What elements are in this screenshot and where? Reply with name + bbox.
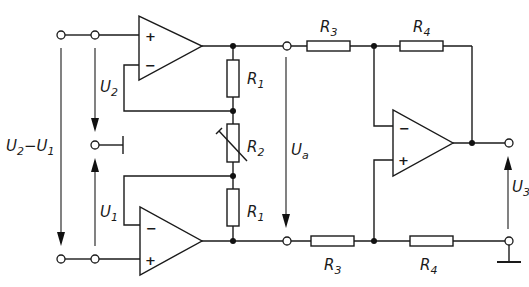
arrow-u3 [504, 156, 512, 229]
svg-text:−: − [145, 58, 156, 73]
label-r2: R2 [247, 138, 264, 159]
node-r1-r2-top [230, 108, 236, 114]
ground-terminal-middle [91, 136, 123, 154]
label-u2: U2 [100, 78, 118, 99]
svg-text:−: − [399, 121, 410, 136]
label-r3-bottom: R3 [324, 256, 341, 277]
node-r1-r2-bottom [230, 173, 236, 179]
wire-plus-input [374, 160, 393, 241]
resistor-r4-top [400, 41, 443, 51]
node-bottom-out [230, 238, 236, 244]
resistor-r2 [227, 124, 239, 162]
label-r1-bottom: R1 [247, 203, 264, 224]
node-top-out [230, 43, 236, 49]
label-u2-minus-u1: U2−U1 [6, 137, 55, 158]
terminal-top-outer [57, 31, 65, 39]
label-r1-top: R1 [247, 70, 264, 91]
terminal-bottom-outer [57, 255, 65, 263]
label-u1: U1 [100, 203, 118, 224]
terminal-u3-top [505, 139, 513, 147]
terminal-ua-bottom [283, 237, 291, 245]
wire-minus-input [374, 46, 393, 126]
arrow-ua [282, 57, 290, 228]
circuit-svg: + − − + − + [0, 0, 529, 287]
ground-icon [497, 245, 521, 262]
label-r4-bottom: R4 [420, 256, 437, 277]
svg-text:+: + [145, 29, 156, 44]
resistor-r4-bottom [410, 236, 453, 246]
svg-text:+: + [145, 253, 156, 268]
terminal-top-inner [91, 31, 99, 39]
svg-text:−: − [146, 221, 157, 236]
resistor-r3-top [307, 41, 350, 51]
arrow-u2-minus-u1 [57, 48, 65, 246]
feedback-top [124, 65, 233, 111]
arrow-u2 [91, 48, 99, 132]
opamp-bottom: − + [140, 207, 202, 275]
terminal-u3-bottom [505, 237, 513, 245]
terminal-ua-top [283, 42, 291, 50]
label-ua: Ua [291, 141, 309, 162]
circuit-diagram: + − − + − + [0, 0, 529, 287]
node-output [469, 140, 475, 146]
arrow-u1 [91, 158, 99, 246]
opamp-output: − + [393, 110, 453, 176]
terminal-bottom-inner [91, 255, 99, 263]
svg-text:+: + [398, 153, 409, 168]
resistor-r1-top [227, 60, 239, 97]
resistor-r1-bottom [227, 189, 239, 226]
label-u3: U3 [512, 178, 529, 199]
label-r3-top: R3 [320, 18, 337, 39]
node-r3-r4-bottom [371, 238, 377, 244]
resistor-r3-bottom [311, 236, 354, 246]
label-r4-top: R4 [413, 18, 430, 39]
opamp-top: + − [139, 16, 202, 80]
